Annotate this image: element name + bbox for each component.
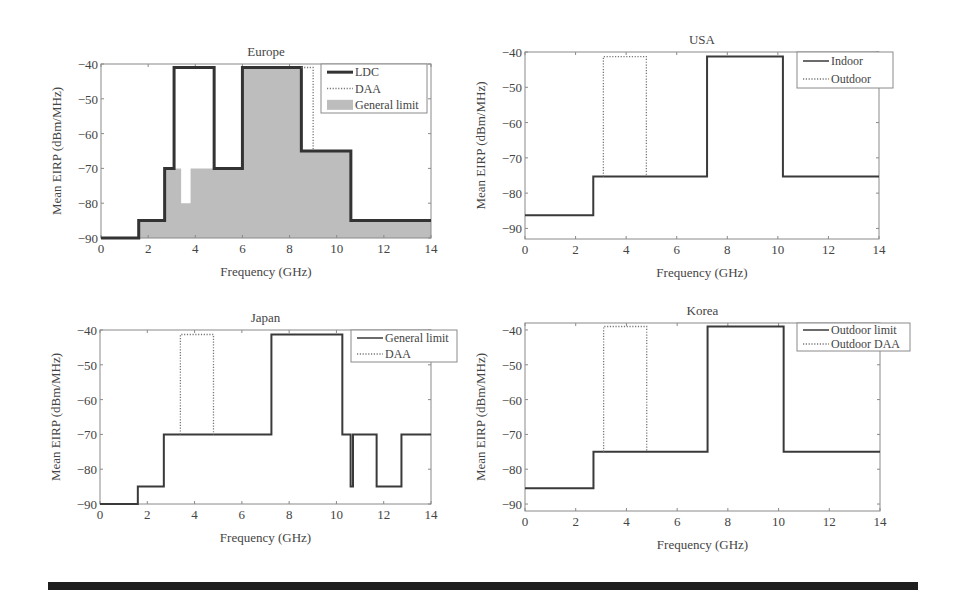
x-tick-label: 4 — [623, 242, 630, 257]
x-tick-label: 2 — [572, 242, 579, 257]
series-daa — [301, 67, 313, 151]
y-tick-label: −80 — [77, 462, 97, 477]
y-axis-label: Mean EIRP (dBm/MHz) — [49, 87, 64, 215]
chart-usa: USA02468101214−40−50−60−70−80−90Frequenc… — [473, 32, 893, 280]
x-tick-label: 6 — [239, 507, 246, 522]
figure-canvas: Europe02468101214−40−50−60−70−80−90Frequ… — [0, 0, 964, 593]
y-tick-label: −40 — [77, 323, 97, 338]
y-tick-label: −60 — [78, 127, 98, 142]
chart-europe: Europe02468101214−40−50−60−70−80−90Frequ… — [49, 44, 438, 279]
legend-label: Outdoor limit — [831, 323, 897, 337]
x-tick-label: 4 — [623, 514, 630, 529]
page-bottom-rule — [48, 582, 918, 590]
series-daa — [180, 335, 213, 435]
series-outdoor-daa — [604, 326, 647, 451]
y-tick-label: −40 — [78, 57, 98, 72]
legend-label: General limit — [355, 98, 419, 112]
x-tick-label: 12 — [822, 242, 835, 257]
y-tick-label: −70 — [78, 161, 98, 176]
x-tick-label: 10 — [772, 514, 785, 529]
x-tick-label: 12 — [377, 241, 390, 256]
x-tick-label: 14 — [874, 514, 888, 529]
y-tick-label: −40 — [502, 323, 522, 338]
x-tick-label: 10 — [330, 507, 343, 522]
y-tick-label: −40 — [502, 45, 522, 60]
x-tick-label: 0 — [97, 507, 104, 522]
legend-swatch-fill — [327, 100, 353, 110]
y-tick-label: −50 — [77, 358, 97, 373]
chart-title: Korea — [687, 303, 719, 318]
x-tick-label: 14 — [425, 241, 439, 256]
chart-title: Japan — [251, 310, 281, 325]
x-tick-label: 0 — [522, 242, 529, 257]
x-tick-label: 6 — [674, 514, 681, 529]
x-tick-label: 8 — [286, 241, 293, 256]
y-tick-label: −60 — [502, 393, 522, 408]
y-tick-label: −50 — [78, 92, 98, 107]
y-axis-label: Mean EIRP (dBm/MHz) — [473, 353, 488, 481]
x-tick-label: 2 — [572, 514, 579, 529]
x-tick-label: 8 — [286, 507, 293, 522]
y-tick-label: −50 — [502, 358, 522, 373]
x-tick-label: 6 — [239, 241, 246, 256]
legend-label: LDC — [355, 65, 379, 79]
legend-label: Indoor — [831, 54, 863, 68]
y-axis-label: Mean EIRP (dBm/MHz) — [48, 353, 63, 481]
x-tick-label: 2 — [144, 507, 151, 522]
legend-label: Outdoor — [831, 72, 871, 86]
y-tick-label: −80 — [502, 186, 522, 201]
x-tick-label: 4 — [192, 241, 199, 256]
y-axis-label: Mean EIRP (dBm/MHz) — [473, 81, 488, 209]
x-tick-label: 8 — [724, 242, 731, 257]
x-tick-label: 8 — [725, 514, 732, 529]
y-tick-label: −90 — [502, 497, 522, 512]
x-tick-label: 2 — [145, 241, 152, 256]
legend: General limitDAA — [351, 330, 457, 362]
x-tick-label: 6 — [673, 242, 680, 257]
y-tick-label: −80 — [502, 462, 522, 477]
y-tick-label: −70 — [502, 427, 522, 442]
x-tick-label: 12 — [823, 514, 836, 529]
x-tick-label: 0 — [98, 241, 105, 256]
x-tick-label: 4 — [191, 507, 198, 522]
legend-label: General limit — [385, 331, 449, 345]
y-tick-label: −80 — [78, 196, 98, 211]
series-outdoor — [603, 57, 646, 177]
chart-title: Europe — [247, 44, 285, 59]
y-tick-label: −90 — [77, 497, 97, 512]
y-tick-label: −50 — [502, 80, 522, 95]
x-tick-label: 14 — [425, 507, 439, 522]
x-axis-label: Frequency (GHz) — [657, 537, 748, 552]
y-tick-label: −70 — [502, 151, 522, 166]
y-tick-label: −60 — [77, 393, 97, 408]
legend: Outdoor limitOutdoor DAA — [797, 323, 910, 351]
y-tick-label: −60 — [502, 116, 522, 131]
x-axis-label: Frequency (GHz) — [656, 265, 747, 280]
x-tick-label: 10 — [330, 241, 343, 256]
x-axis-label: Frequency (GHz) — [220, 264, 311, 279]
x-tick-label: 12 — [377, 507, 390, 522]
chart-title: USA — [689, 32, 716, 47]
x-tick-label: 14 — [873, 242, 887, 257]
y-tick-label: −90 — [502, 221, 522, 236]
y-tick-label: −90 — [78, 231, 98, 246]
legend: LDCDAAGeneral limit — [321, 64, 427, 113]
legend-label: Outdoor DAA — [831, 337, 900, 351]
legend: IndoorOutdoor — [797, 52, 893, 88]
x-axis-label: Frequency (GHz) — [220, 530, 311, 545]
legend-label: DAA — [385, 347, 411, 361]
chart-japan: Japan02468101214−40−50−60−70−80−90Freque… — [48, 310, 457, 545]
x-tick-label: 0 — [522, 514, 529, 529]
chart-korea: Korea02468101214−40−50−60−70−80−90Freque… — [473, 303, 910, 552]
legend-label: DAA — [355, 82, 381, 96]
x-tick-label: 10 — [771, 242, 784, 257]
y-tick-label: −70 — [77, 427, 97, 442]
